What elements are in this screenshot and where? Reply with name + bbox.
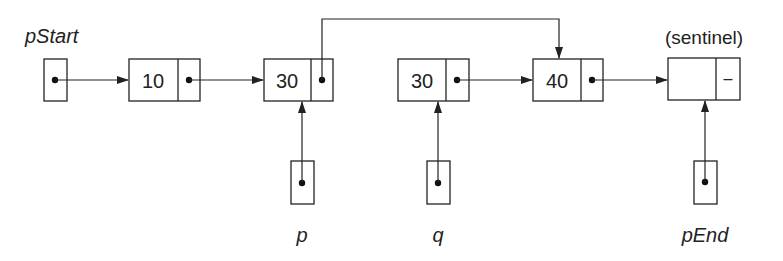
pend-label: pEnd (681, 224, 730, 246)
null-symbol: – (724, 70, 733, 87)
node-value: 10 (142, 70, 164, 92)
node-value: 40 (546, 70, 568, 92)
node-value: 30 (276, 70, 298, 92)
q-label: q (432, 224, 443, 246)
sentinel-node: – (668, 58, 740, 100)
p-label: p (295, 224, 307, 246)
sentinel-label: (sentinel) (665, 27, 743, 48)
linked-list-diagram: pStart 10 30 30 40 (sentinel) (0, 0, 783, 261)
node-30-p: 30 (264, 59, 333, 101)
node-value: 30 (411, 70, 433, 92)
pstart-label: pStart (24, 25, 80, 47)
